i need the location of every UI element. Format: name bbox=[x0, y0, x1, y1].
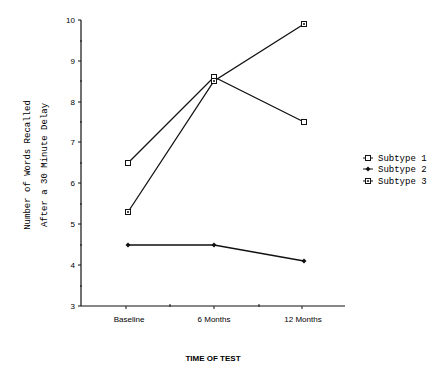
legend-item-subtype-2: Subtype 2 bbox=[363, 165, 427, 175]
y-tick-label: 8 bbox=[71, 98, 76, 107]
y-tick-label: 10 bbox=[66, 16, 75, 25]
series-subtype-3-line bbox=[128, 24, 304, 212]
open-square-marker-icon bbox=[366, 156, 371, 161]
filled-diamond-marker-icon bbox=[366, 167, 371, 172]
x-tick-label-6-months: 6 Months bbox=[198, 315, 231, 324]
y-axis-title-line2: After a 30 Minute Delay bbox=[40, 102, 50, 227]
series-subtype-1-markers bbox=[126, 75, 307, 166]
y-tick-label: 6 bbox=[71, 179, 76, 188]
line-chart: 3 4 5 6 7 8 9 10 Baseline 6 Months 12 Mo… bbox=[0, 0, 432, 388]
legend-label: Subtype 2 bbox=[378, 165, 427, 175]
series-subtype-1-line bbox=[128, 77, 304, 163]
legend-label: Subtype 1 bbox=[378, 154, 427, 164]
series-subtype-3-markers bbox=[126, 22, 307, 215]
x-axis-title: TIME OF TEST bbox=[185, 354, 240, 363]
legend: Subtype 1 Subtype 2 Subtype 3 bbox=[363, 154, 427, 187]
legend-label: Subtype 3 bbox=[378, 177, 427, 187]
y-tick-label: 9 bbox=[71, 57, 76, 66]
legend-item-subtype-3: Subtype 3 bbox=[363, 177, 427, 187]
y-tick-label: 3 bbox=[71, 302, 76, 311]
series-subtype-2-line bbox=[128, 245, 304, 261]
y-tick-label: 4 bbox=[71, 261, 76, 270]
x-tick-label-12-months: 12 Months bbox=[284, 315, 321, 324]
y-axis-title-line1: Number of Words Recalled bbox=[23, 100, 33, 230]
legend-item-subtype-1: Subtype 1 bbox=[363, 154, 427, 164]
x-tick-label-baseline: Baseline bbox=[114, 315, 145, 324]
y-tick-label: 5 bbox=[71, 220, 76, 229]
y-tick-label: 7 bbox=[71, 138, 76, 147]
